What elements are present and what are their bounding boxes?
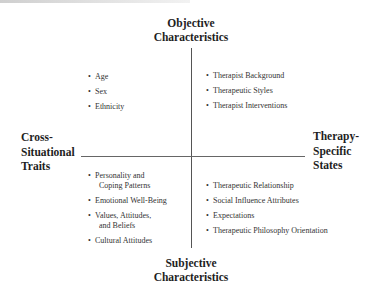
bullet-icon: • <box>206 71 209 81</box>
list-item-text: Therapeutic Philosophy Orientation <box>213 226 328 235</box>
list-item-text: Emotional Well-Being <box>95 196 167 205</box>
bullet-icon: • <box>206 181 209 191</box>
list-item: •Age <box>88 72 124 82</box>
quadrant-top-right-list: •Therapist Background •Therapeutic Style… <box>206 71 287 116</box>
quadrant-bottom-left-list: •Personality andCoping Patterns •Emotion… <box>88 171 167 251</box>
axis-title-right-line3: States <box>313 158 359 173</box>
list-item: •Social Influence Attributes <box>206 196 328 206</box>
axis-title-left-line3: Traits <box>21 159 75 174</box>
list-item-text: Cultural Attitudes <box>95 236 152 245</box>
bullet-icon: • <box>88 171 91 181</box>
bullet-icon: • <box>206 101 209 111</box>
scan-edge <box>0 0 190 3</box>
bullet-icon: • <box>206 211 209 221</box>
list-item-text: Social Influence Attributes <box>213 196 299 205</box>
list-item: •Values, Attitudes,and Beliefs <box>88 211 167 231</box>
quadrant-top-left-list: •Age •Sex •Ethnicity <box>88 72 124 117</box>
axis-title-top: Objective Characteristics <box>141 16 241 44</box>
list-item: •Personality andCoping Patterns <box>88 171 167 191</box>
bullet-icon: • <box>88 236 91 246</box>
list-item: •Therapist Background <box>206 71 287 81</box>
axis-title-top-line1: Objective <box>141 16 241 30</box>
list-item-text: Therapist Background <box>213 71 284 80</box>
list-item: •Expectations <box>206 211 328 221</box>
bullet-icon: • <box>206 86 209 96</box>
axis-title-right-line1: Therapy- <box>313 129 359 144</box>
list-item: •Cultural Attitudes <box>88 236 167 246</box>
bullet-icon: • <box>88 211 91 221</box>
list-item: •Therapist Interventions <box>206 101 287 111</box>
axis-title-right: Therapy- Specific States <box>313 129 359 173</box>
list-item-text: Age <box>95 72 108 81</box>
list-item-text: Therapeutic Relationship <box>213 181 294 190</box>
list-item: •Therapeutic Relationship <box>206 181 328 191</box>
list-item: •Therapeutic Philosophy Orientation <box>206 226 328 236</box>
quadrant-bottom-right-list: •Therapeutic Relationship •Social Influe… <box>206 181 328 241</box>
horizontal-axis-line <box>81 156 305 157</box>
list-item-text: Sex <box>95 87 107 96</box>
list-item: •Sex <box>88 87 124 97</box>
axis-title-bottom-line1: Subjective <box>141 256 241 270</box>
list-item: •Emotional Well-Being <box>88 196 167 206</box>
list-item-text: Expectations <box>213 211 254 220</box>
axis-title-top-line2: Characteristics <box>141 30 241 44</box>
list-item-text-continued: and Beliefs <box>95 221 167 231</box>
list-item-text: Therapist Interventions <box>213 101 287 110</box>
bullet-icon: • <box>206 226 209 236</box>
bullet-icon: • <box>88 87 91 97</box>
bullet-icon: • <box>206 196 209 206</box>
bullet-icon: • <box>88 196 91 206</box>
axis-title-right-line2: Specific <box>313 144 359 159</box>
axis-title-left-line2: Situational <box>21 145 75 160</box>
list-item-text-continued: Coping Patterns <box>95 181 167 191</box>
vertical-axis-line <box>191 48 192 248</box>
axis-title-left: Cross- Situational Traits <box>21 130 75 174</box>
axis-title-left-line1: Cross- <box>21 130 75 145</box>
axis-title-bottom-line2: Characteristics <box>141 270 241 284</box>
list-item-text: Personality and <box>95 171 145 180</box>
bullet-icon: • <box>88 72 91 82</box>
list-item-text: Ethnicity <box>95 102 124 111</box>
list-item: •Ethnicity <box>88 102 124 112</box>
list-item: •Therapeutic Styles <box>206 86 287 96</box>
bullet-icon: • <box>88 102 91 112</box>
list-item-text: Values, Attitudes, <box>95 211 151 220</box>
axis-title-bottom: Subjective Characteristics <box>141 256 241 284</box>
list-item-text: Therapeutic Styles <box>213 86 273 95</box>
